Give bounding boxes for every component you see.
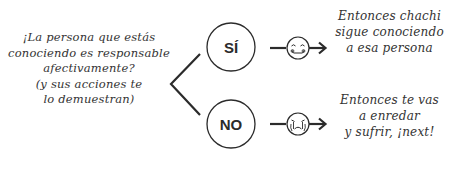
branch-yes: SÍ <box>207 23 326 71</box>
outcome-line: a esa persona <box>326 40 453 56</box>
outcome-line: Entonces te vas <box>326 92 453 108</box>
yes-arrow-icon <box>309 43 326 54</box>
branch-connector <box>171 54 200 115</box>
no-label: NO <box>220 116 243 133</box>
outcome-line: a enredar <box>326 108 453 124</box>
outcome-line: sigue conociendo <box>326 24 453 40</box>
no-arrow-icon <box>309 119 326 130</box>
outcome-line: y sufrir, ¡next! <box>326 124 453 140</box>
happy-face-icon <box>287 37 309 59</box>
outcome-no-text: Entonces te vas a enredar y sufrir, ¡nex… <box>326 92 453 140</box>
outcome-line: Entonces chachi <box>326 8 453 24</box>
outcome-yes-text: Entonces chachi sigue conociendo a esa p… <box>326 8 453 56</box>
crying-face-icon <box>287 113 309 135</box>
branch-no: NO <box>207 100 326 148</box>
yes-label: SÍ <box>224 39 239 56</box>
